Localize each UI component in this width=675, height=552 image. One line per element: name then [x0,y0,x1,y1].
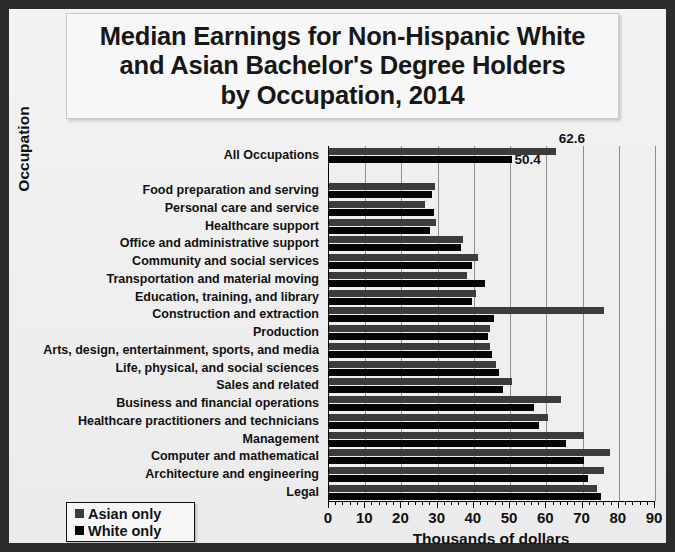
bar-row [329,236,655,253]
tick-minor [480,501,481,505]
tick-minor [444,501,445,505]
category-label: Education, training, and library [135,291,319,304]
tick-minor [524,501,525,505]
data-label: 50.4 [515,152,541,167]
bar-white [329,440,566,447]
y-axis-title: Occupation [15,84,33,214]
tick-minor [531,501,532,505]
tick-minor [429,501,430,505]
tick-major [618,501,619,508]
tick-minor [386,501,387,505]
tick-minor [466,501,467,505]
bar-asian [329,343,490,350]
legend-item: White only [75,522,194,539]
tick-major [545,501,546,508]
bar-white [329,404,534,411]
category-label: Construction and extraction [152,308,319,321]
bar-row [329,396,655,413]
x-tick-label: 70 [573,509,590,526]
legend-swatch [75,526,84,535]
bar-asian [329,449,610,456]
bar-white [329,244,461,251]
bar-white [329,262,472,269]
tick-major [473,501,474,508]
category-label: Community and social services [132,255,319,268]
tick-minor [611,501,612,505]
bar-row [329,290,655,307]
bar-row [329,485,655,502]
tick-minor [553,501,554,505]
x-tick-label: 40 [465,509,482,526]
tick-minor [596,501,597,505]
x-tick-label: 20 [392,509,409,526]
category-label: Production [253,326,319,339]
legend-item: Asian only [75,505,194,522]
bar-row [329,201,655,218]
tick-minor [516,501,517,505]
tick-minor [647,501,648,505]
bar-row [329,183,655,200]
tick-minor [502,501,503,505]
bar-asian [329,236,463,243]
bar-asian [329,307,604,314]
bar-white [329,227,430,234]
tick-minor [603,501,604,505]
bar-row [329,432,655,449]
bar-row [329,343,655,360]
bar-row [329,307,655,324]
bar-row [329,467,655,484]
tick-minor [408,501,409,505]
gridline [655,146,656,501]
category-label: Business and financial operations [116,397,319,410]
category-label: All Occupations [224,149,319,162]
bar-asian [329,485,597,492]
tick-minor [495,501,496,505]
bar-row [329,414,655,431]
x-axis-title: Thousands of dollars [328,530,654,548]
bar-white [329,351,492,358]
chart-frame: Median Earnings for Non-Hispanic White a… [0,0,675,552]
tick-minor [567,501,568,505]
chart-title-box: Median Earnings for Non-Hispanic White a… [66,13,619,119]
bar-white [329,298,472,305]
bar-white [329,422,539,429]
tick-minor [357,501,358,505]
tick-minor [640,501,641,505]
x-tick-label: 30 [428,509,445,526]
bar-white [329,333,488,340]
bar-asian [329,396,561,403]
bar-asian [329,219,436,226]
bar-asian [329,361,496,368]
tick-minor [625,501,626,505]
bar-white [329,369,499,376]
category-label: Personal care and service [165,202,319,215]
bar-asian [329,201,425,208]
tick-minor [350,501,351,505]
x-axis-tick-labels: 0102030405060708090 [328,509,654,529]
tick-minor [371,501,372,505]
y-axis-category-labels: All OccupationsFood preparation and serv… [9,146,323,501]
tick-major [509,501,510,508]
x-tick-label: 60 [537,509,554,526]
category-label: Food preparation and serving [143,184,319,197]
category-label: Architecture and engineering [145,468,319,481]
tick-minor [458,501,459,505]
category-label: Computer and mathematical [151,450,319,463]
legend-label: Asian only [88,506,161,522]
bar-asian [329,272,467,279]
bar-row [329,361,655,378]
bar-row [329,378,655,395]
category-label: Healthcare support [205,220,319,233]
bar-row [329,148,655,165]
tick-minor [538,501,539,505]
bar-white [329,156,512,163]
bar-asian [329,290,476,297]
plot-area: 62.650.4 [328,146,655,501]
tick-minor [379,501,380,505]
tick-major [582,501,583,508]
category-label: Life, physical, and social sciences [115,362,319,375]
bar-row [329,272,655,289]
x-tick-label: 0 [324,509,332,526]
x-tick-label: 50 [501,509,518,526]
tick-major [654,501,655,508]
